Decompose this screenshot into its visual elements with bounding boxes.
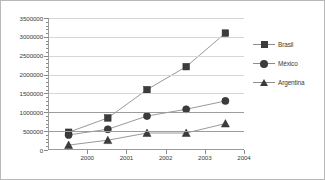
x-tick-label: 2001 xyxy=(111,154,141,161)
y-tick-mark-minor xyxy=(46,116,48,117)
x-tick-mark xyxy=(87,150,88,154)
y-tick-mark-minor xyxy=(46,97,48,98)
data-point-brasil[interactable] xyxy=(144,86,151,93)
circle-marker-icon xyxy=(253,58,275,70)
y-tick-mark-minor xyxy=(46,33,48,34)
y-tick-label: 2000000 xyxy=(20,71,43,78)
y-tick-mark-minor xyxy=(46,22,48,23)
y-tick-mark xyxy=(44,75,48,76)
y-tick-label: 1500000 xyxy=(20,90,43,97)
data-point-argentina[interactable] xyxy=(221,120,229,127)
y-tick-mark-minor xyxy=(46,139,48,140)
y-tick-mark-minor xyxy=(46,124,48,125)
y-tick-mark-minor xyxy=(46,59,48,60)
y-tick-mark-minor xyxy=(46,90,48,91)
y-tick-mark-minor xyxy=(46,86,48,87)
y-tick-mark-minor xyxy=(46,101,48,102)
y-tick-label: 2500000 xyxy=(20,52,43,59)
y-tick-mark-minor xyxy=(46,41,48,42)
y-tick-label: 3000000 xyxy=(20,33,43,40)
y-tick-mark xyxy=(44,18,48,19)
y-tick-mark xyxy=(44,93,48,94)
gridline-y xyxy=(49,112,244,113)
data-point-brasil[interactable] xyxy=(222,30,229,37)
data-point-méxico[interactable] xyxy=(143,112,150,119)
y-tick-mark-minor xyxy=(46,52,48,53)
y-tick-mark xyxy=(44,56,48,57)
data-point-brasil[interactable] xyxy=(105,115,112,122)
data-point-méxico[interactable] xyxy=(65,131,72,138)
square-marker-icon xyxy=(253,39,275,51)
triangle-marker-icon xyxy=(253,77,275,89)
x-tick-label: 2002 xyxy=(151,154,181,161)
legend-item-mexico[interactable]: México xyxy=(253,54,323,73)
gridline-y xyxy=(49,93,244,94)
y-tick-mark xyxy=(44,131,48,132)
y-tick-mark-minor xyxy=(46,135,48,136)
legend-label-argentina: Argentina xyxy=(275,79,304,86)
chart-legend: Brasil México Argentina xyxy=(253,35,323,92)
y-tick-label: 500000 xyxy=(23,128,43,135)
y-tick-mark-minor xyxy=(46,109,48,110)
y-tick-mark-minor xyxy=(46,127,48,128)
x-tick-label: 2003 xyxy=(190,154,220,161)
x-tick-mark xyxy=(126,150,127,154)
legend-label-brasil: Brasil xyxy=(275,41,293,48)
y-tick-mark-minor xyxy=(46,63,48,64)
gridline-y xyxy=(49,18,244,19)
plot-area xyxy=(48,18,244,150)
gridline-y xyxy=(49,131,244,132)
y-tick-mark-minor xyxy=(46,44,48,45)
y-tick-mark-minor xyxy=(46,29,48,30)
y-tick-label: 0 xyxy=(40,147,43,154)
y-tick-mark-minor xyxy=(46,26,48,27)
x-tick-mark xyxy=(166,150,167,154)
x-tick-label: 2000 xyxy=(72,154,102,161)
y-tick-mark xyxy=(44,150,48,151)
y-tick-mark-minor xyxy=(46,67,48,68)
y-tick-mark-minor xyxy=(46,71,48,72)
gridline-y xyxy=(49,37,244,38)
data-point-brasil[interactable] xyxy=(183,63,190,70)
x-tick-label: 2004 xyxy=(229,154,259,161)
data-point-méxico[interactable] xyxy=(222,97,229,104)
y-tick-mark-minor xyxy=(46,146,48,147)
x-tick-mark xyxy=(244,150,245,154)
y-tick-mark-minor xyxy=(46,142,48,143)
y-tick-mark-minor xyxy=(46,78,48,79)
y-tick-mark-minor xyxy=(46,105,48,106)
y-tick-mark xyxy=(44,112,48,113)
y-tick-mark-minor xyxy=(46,82,48,83)
legend-label-mexico: México xyxy=(275,60,298,67)
y-tick-mark-minor xyxy=(46,120,48,121)
y-tick-mark-minor xyxy=(46,48,48,49)
chart-container: Brasil México Argentina 0500000100000015… xyxy=(0,0,325,180)
y-tick-mark xyxy=(44,37,48,38)
gridline-y xyxy=(49,75,244,76)
y-tick-label: 3500000 xyxy=(20,15,43,22)
y-tick-label: 1000000 xyxy=(20,109,43,116)
legend-item-brasil[interactable]: Brasil xyxy=(253,35,323,54)
gridline-y xyxy=(49,56,244,57)
legend-item-argentina[interactable]: Argentina xyxy=(253,73,323,92)
x-tick-mark xyxy=(205,150,206,154)
